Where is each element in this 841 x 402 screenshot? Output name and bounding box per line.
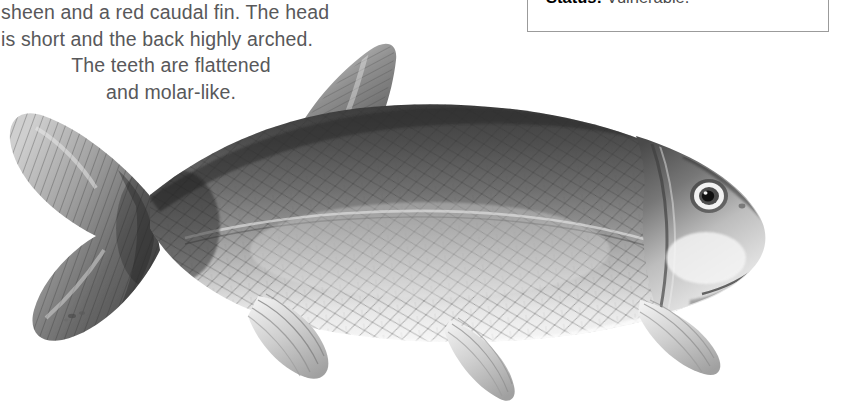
status-info-box: Status: Vulnerable. [527,0,829,32]
caption-line-4: and molar-like. [0,79,360,106]
caption-line-3: The teeth are flattened [0,52,360,79]
pectoral-fin [638,300,720,375]
caption-line-1: sheen and a red caudal fin. The head [0,0,360,26]
fish-head [636,136,765,318]
caption-text-block: sheen and a red caudal fin. The head is … [0,0,360,105]
status-value: Vulnerable. [607,0,690,6]
eye [690,179,728,213]
caption-line-2: is short and the back highly arched. [0,26,360,53]
status-label: Status: [546,0,602,6]
nostril [739,204,746,209]
status-line: Status: Vulnerable. [546,0,689,7]
